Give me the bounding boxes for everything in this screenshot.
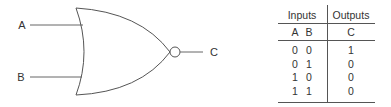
header-outputs: Outputs	[333, 10, 370, 21]
cell-b: 0	[306, 45, 312, 56]
cell-a: 1	[292, 86, 298, 97]
cell-a: 1	[292, 72, 298, 83]
inversion-bubble	[170, 47, 180, 57]
input-a-label: A	[18, 20, 25, 31]
input-b-label: B	[17, 72, 24, 83]
cell-c: 0	[348, 72, 354, 83]
header-inputs: Inputs	[288, 10, 317, 21]
column-divider	[327, 5, 328, 102]
or-gate-body	[76, 8, 170, 95]
cell-b: 1	[306, 59, 312, 70]
cell-b: 1	[306, 86, 312, 97]
column-header-b: B	[305, 27, 312, 38]
cell-c: 1	[348, 45, 354, 56]
cell-a: 0	[292, 45, 298, 56]
cell-b: 0	[306, 72, 312, 83]
cell-c: 0	[348, 86, 354, 97]
column-header-c: C	[347, 27, 355, 38]
bottom-rule	[278, 102, 375, 103]
cell-c: 0	[348, 59, 354, 70]
cell-a: 0	[292, 59, 298, 70]
output-c-label: C	[210, 47, 218, 58]
column-header-a: A	[291, 27, 298, 38]
